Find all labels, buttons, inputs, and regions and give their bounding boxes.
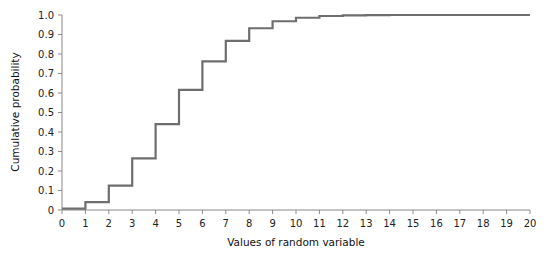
x-axis-title: Values of random variable [227,236,365,248]
x-tick-label: 16 [430,218,443,229]
y-tick-label: 0.1 [38,185,54,196]
y-axis-title: Cumulative probability [9,52,21,171]
y-tick-label: 0.5 [38,107,54,118]
x-tick-label: 19 [500,218,513,229]
x-tick-label: 1 [82,218,88,229]
y-tick-label: 0.8 [38,49,54,60]
y-tick-label: 0.2 [38,166,54,177]
x-tick-label: 0 [59,218,65,229]
x-tick-label: 3 [129,218,135,229]
x-tick-label: 5 [176,218,182,229]
x-tick-label: 4 [152,218,158,229]
y-tick-label: 1.0 [38,10,54,21]
x-tick-label: 7 [223,218,229,229]
y-tick-label: 0.4 [38,127,54,138]
x-tick-label: 10 [290,218,303,229]
cdf-step-line [62,15,530,209]
x-tick-label: 11 [313,218,326,229]
y-tick-label: 0.3 [38,146,54,157]
y-tick-label: 0.6 [38,88,54,99]
x-tick-label: 15 [407,218,420,229]
x-tick-label: 8 [246,218,252,229]
y-axis: 00.10.20.30.40.50.60.70.80.91.0 [38,10,62,216]
x-tick-label: 18 [477,218,490,229]
y-tick-label: 0.9 [38,29,54,40]
x-tick-label: 17 [453,218,466,229]
plot-area [62,15,530,209]
x-tick-label: 9 [269,218,275,229]
y-tick-label: 0 [48,205,54,216]
x-axis: 01234567891011121314151617181920 [59,210,537,229]
x-tick-label: 13 [360,218,373,229]
y-tick-label: 0.7 [38,68,54,79]
cumulative-probability-chart: 00.10.20.30.40.50.60.70.80.91.0 01234567… [0,0,557,256]
x-tick-label: 20 [524,218,537,229]
x-tick-label: 14 [383,218,396,229]
x-tick-label: 2 [106,218,112,229]
x-tick-label: 12 [336,218,349,229]
x-tick-label: 6 [199,218,205,229]
